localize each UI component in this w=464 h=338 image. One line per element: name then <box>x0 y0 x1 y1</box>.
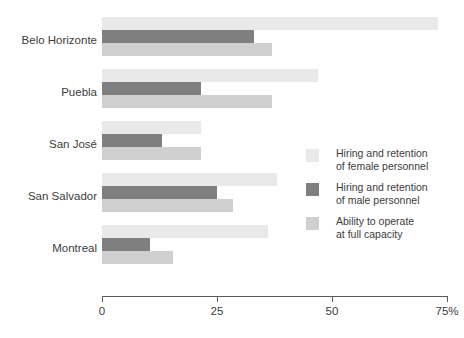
category-label-belo-horizonte: Belo Horizonte <box>0 34 97 46</box>
bar-montreal-female <box>102 225 268 238</box>
bar-belo-horizonte-male <box>102 30 254 43</box>
x-axis-tick-50 <box>332 296 333 302</box>
bar-san-jose-female <box>102 121 201 134</box>
bar-san-jose-male <box>102 134 162 147</box>
x-axis-tick-75 <box>447 296 448 302</box>
legend-label-capacity: Ability to operate at full capacity <box>336 215 414 240</box>
x-axis-label-25: 25 <box>211 305 224 317</box>
bar-puebla-female <box>102 69 318 82</box>
bar-chart: Belo Horizonte Puebla San José San Salva… <box>0 0 464 338</box>
bar-puebla-male <box>102 82 201 95</box>
legend-swatch-capacity <box>306 217 319 230</box>
x-axis-tick-25 <box>217 296 218 302</box>
bar-puebla-capacity <box>102 95 272 108</box>
legend-label-capacity-line2: at full capacity <box>336 228 403 240</box>
bar-san-salvador-female <box>102 173 277 186</box>
category-label-san-salvador: San Salvador <box>0 190 97 202</box>
bar-san-salvador-capacity <box>102 199 233 212</box>
legend-label-capacity-line1: Ability to operate <box>336 215 414 227</box>
x-axis-label-75: 75% <box>435 305 458 317</box>
x-axis-tick-0 <box>102 296 103 302</box>
bar-montreal-capacity <box>102 251 173 264</box>
legend-swatch-male <box>306 183 319 196</box>
category-label-montreal: Montreal <box>0 242 97 254</box>
legend-swatch-female <box>306 149 319 162</box>
legend-label-male: Hiring and retention of male personnel <box>336 181 428 206</box>
x-axis-label-0: 0 <box>99 305 105 317</box>
bar-belo-horizonte-female <box>102 17 438 30</box>
x-axis-label-50: 50 <box>326 305 339 317</box>
bar-belo-horizonte-capacity <box>102 43 272 56</box>
category-label-san-jose: San José <box>0 138 97 150</box>
bar-san-salvador-male <box>102 186 217 199</box>
legend-label-female: Hiring and retention of female personnel <box>336 147 428 172</box>
category-label-puebla: Puebla <box>0 86 97 98</box>
legend-label-male-line1: Hiring and retention <box>336 181 428 193</box>
legend-label-female-line1: Hiring and retention <box>336 147 428 159</box>
bar-san-jose-capacity <box>102 147 201 160</box>
bar-montreal-male <box>102 238 150 251</box>
x-axis-line <box>102 296 447 297</box>
legend-label-male-line2: of male personnel <box>336 194 419 206</box>
legend-label-female-line2: of female personnel <box>336 160 428 172</box>
